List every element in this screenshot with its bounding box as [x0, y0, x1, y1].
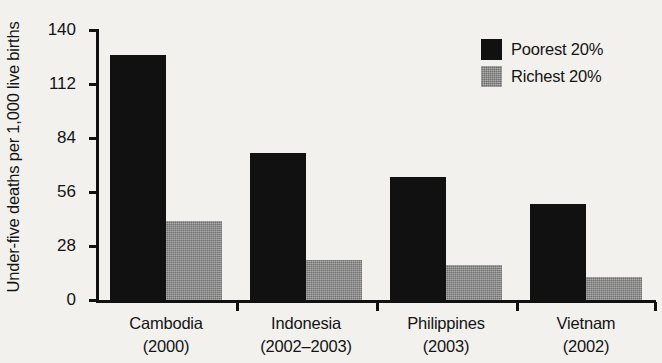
bar-vietnam-poorest-20: [530, 204, 586, 300]
bar-philippines-richest-20: [446, 265, 502, 300]
y-axis-tick-label: 56: [16, 180, 76, 204]
x-axis-label-year: (2003): [376, 335, 516, 358]
bar-indonesia-poorest-20: [250, 153, 306, 300]
x-axis-label-year: (2000): [96, 335, 236, 358]
gray-square-swatch: [481, 66, 502, 87]
y-axis-title: Under-five deaths per 1,000 live births: [0, 2, 26, 312]
x-axis-label-country: Cambodia: [96, 312, 236, 335]
legend-item: Poorest 20%: [481, 36, 603, 63]
bar-philippines-poorest-20: [390, 177, 446, 300]
y-axis-tick-label: 84: [16, 126, 76, 150]
chart-legend: Poorest 20%Richest 20%: [481, 36, 603, 90]
x-axis-label-indonesia: Indonesia(2002–2003): [236, 312, 376, 358]
black-square-swatch: [481, 39, 502, 60]
x-axis-label-philippines: Philippines(2003): [376, 312, 516, 358]
bar-chart: Under-five deaths per 1,000 live births …: [0, 0, 662, 363]
x-axis-tick-mark: [236, 302, 239, 311]
x-axis-tick-mark: [654, 302, 657, 311]
x-axis-label-vietnam: Vietnam(2002): [516, 312, 656, 358]
legend-item: Richest 20%: [481, 63, 603, 90]
x-axis-label-year: (2002): [516, 335, 656, 358]
legend-item-label: Richest 20%: [511, 67, 601, 86]
x-axis-label-year: (2002–2003): [236, 335, 376, 358]
legend-item-label: Poorest 20%: [511, 40, 603, 59]
x-axis-tick-mark: [516, 302, 519, 311]
y-axis-tick-label: 140: [16, 18, 76, 42]
bar-indonesia-richest-20: [306, 260, 362, 301]
x-axis-label-cambodia: Cambodia(2000): [96, 312, 236, 358]
x-axis-label-country: Vietnam: [516, 312, 656, 335]
y-axis-tick-label: 28: [16, 234, 76, 258]
y-axis-tick-label: 0: [16, 288, 76, 312]
bar-cambodia-poorest-20: [110, 55, 166, 300]
bar-cambodia-richest-20: [166, 221, 222, 300]
x-axis-label-country: Philippines: [376, 312, 516, 335]
x-axis-tick-mark: [376, 302, 379, 311]
x-axis-label-country: Indonesia: [236, 312, 376, 335]
y-axis-tick-label: 112: [16, 72, 76, 96]
bar-vietnam-richest-20: [586, 277, 642, 300]
